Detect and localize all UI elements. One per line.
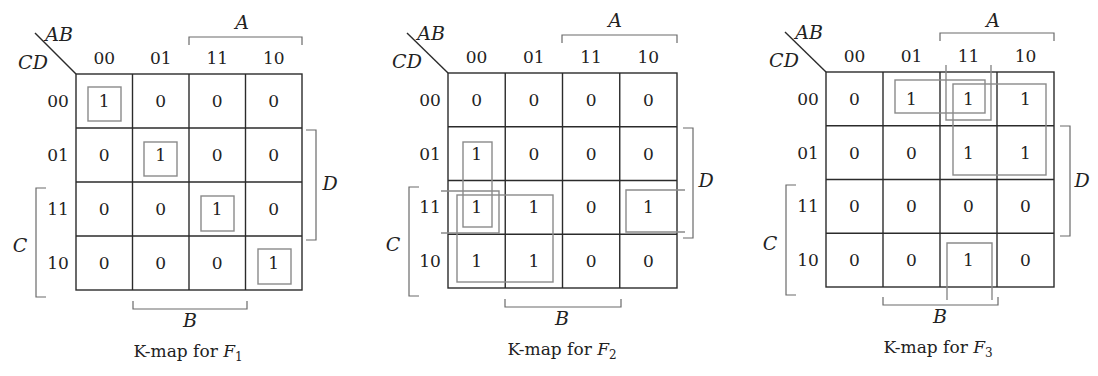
kmap-cell: 0 (155, 199, 166, 219)
bracket-d (1060, 126, 1070, 236)
bracket-b (883, 297, 998, 305)
column-header: 10 (263, 48, 285, 68)
column-header: 00 (466, 47, 488, 67)
var-label-b: B (182, 309, 197, 331)
column-header: 10 (1015, 46, 1037, 66)
kmap-cell: 1 (268, 253, 279, 273)
bracket-b (133, 301, 247, 309)
bracket-d (306, 130, 316, 240)
kmap-cell: 0 (906, 250, 917, 270)
kmap-cell: 0 (643, 90, 654, 110)
column-header: 00 (93, 48, 115, 68)
row-header: 10 (419, 251, 441, 271)
kmap-cell: 0 (155, 91, 166, 111)
column-header: 01 (523, 47, 545, 67)
row-var-label: CD (392, 50, 422, 72)
kmap-cell: 0 (212, 253, 223, 273)
var-label-d: D (321, 172, 337, 194)
col-var-label: AB (793, 21, 823, 43)
kmap-cell: 0 (906, 196, 917, 216)
col-var-label: AB (43, 23, 73, 45)
row-header: 10 (797, 250, 819, 270)
kmap-cell: 1 (471, 197, 482, 217)
kmap-cell: 0 (268, 145, 279, 165)
bracket-a (189, 37, 302, 45)
row-header: 00 (47, 91, 69, 111)
kmap-cell: 1 (471, 144, 482, 164)
kmap-cell: 0 (268, 199, 279, 219)
kmap-cell: 0 (528, 90, 539, 110)
kmap-cell: 1 (906, 89, 917, 109)
kmap-cell: 0 (849, 196, 860, 216)
column-header: 01 (150, 48, 172, 68)
kmap-cell: 0 (1020, 250, 1031, 270)
row-var-label: CD (769, 49, 799, 71)
kmap-cell: 1 (643, 197, 654, 217)
kmap-cell: 0 (643, 251, 654, 271)
row-header: 00 (797, 89, 819, 109)
kmap-cell: 1 (528, 197, 539, 217)
kmap-cell: 0 (99, 145, 110, 165)
bracket-c (786, 185, 796, 295)
var-label-d: D (697, 169, 713, 191)
kmap-caption: K-map for F3 (883, 337, 992, 360)
kmap-cell: 0 (963, 196, 974, 216)
row-header: 01 (797, 143, 819, 163)
kmap-caption: K-map for F1 (133, 341, 242, 364)
kmap-figure: ABCD00011110000111101000010000100001ABCD… (0, 0, 1098, 376)
kmap-cell: 0 (212, 145, 223, 165)
var-label-c: C (13, 234, 28, 256)
column-header: 11 (958, 46, 980, 66)
row-header: 11 (47, 199, 69, 219)
kmap-cell: 0 (586, 197, 597, 217)
row-header: 01 (47, 145, 69, 165)
kmap-cell: 1 (1020, 143, 1031, 163)
column-header: 10 (638, 47, 660, 67)
var-label-b: B (554, 307, 569, 329)
kmap-f1: ABCD00011110000111101000010000100001ABCD… (13, 11, 338, 364)
kmap-cell: 0 (1020, 196, 1031, 216)
var-label-b: B (932, 305, 947, 327)
var-label-a: A (606, 9, 622, 31)
row-header: 10 (47, 253, 69, 273)
kmap-f2: ABCD00011110000111100000100011011100ABCD… (386, 9, 714, 362)
kmap-cell: 1 (528, 251, 539, 271)
kmap-cell: 1 (963, 143, 974, 163)
kmap-f3: ABCD00011110000111100111001100000010ABCD… (763, 9, 1090, 360)
kmap-cell: 0 (471, 90, 482, 110)
row-header: 01 (419, 144, 441, 164)
bracket-a (562, 35, 677, 43)
bracket-d (683, 128, 693, 238)
column-header: 00 (844, 46, 866, 66)
row-header: 11 (797, 196, 819, 216)
col-var-label: AB (415, 22, 445, 44)
kmap-cell: 1 (212, 199, 223, 219)
kmap-cell: 0 (586, 251, 597, 271)
kmap-cell: 0 (586, 90, 597, 110)
var-label-c: C (386, 233, 401, 255)
kmap-cell: 0 (155, 253, 166, 273)
kmap-cell: 0 (212, 91, 223, 111)
var-label-a: A (233, 11, 249, 33)
implicant-group-wrap (626, 190, 685, 232)
kmap-cell: 0 (268, 91, 279, 111)
bracket-b (505, 299, 621, 307)
kmap-cell: 0 (528, 144, 539, 164)
kmap-cell: 0 (849, 250, 860, 270)
bracket-a (940, 33, 1054, 41)
bracket-c (36, 188, 46, 297)
row-var-label: CD (18, 51, 48, 73)
column-header: 01 (901, 46, 923, 66)
var-label-c: C (763, 232, 778, 254)
kmap-cell: 0 (99, 253, 110, 273)
column-header: 11 (580, 47, 602, 67)
column-header: 11 (206, 48, 228, 68)
kmap-cell: 1 (963, 89, 974, 109)
kmap-cell: 0 (586, 144, 597, 164)
kmap-cell: 0 (849, 143, 860, 163)
kmap-caption: K-map for F2 (507, 339, 616, 362)
kmap-cell: 0 (906, 143, 917, 163)
kmap-cell: 1 (1020, 89, 1031, 109)
var-label-d: D (1073, 169, 1089, 191)
kmap-cell: 1 (963, 250, 974, 270)
